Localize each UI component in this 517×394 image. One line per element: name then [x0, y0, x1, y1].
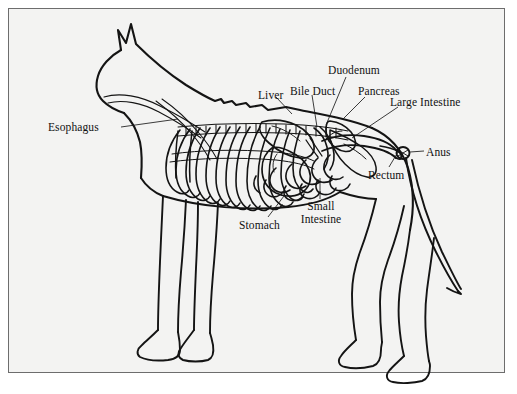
label-liver: Liver	[258, 89, 283, 102]
label-rectum: Rectum	[368, 169, 404, 182]
anatomy-figure: Esophagus Liver Bile Duct Duodenum Pancr…	[0, 0, 517, 394]
label-anus: Anus	[426, 146, 451, 159]
label-bile-duct: Bile Duct	[290, 85, 335, 98]
label-large-intestine: Large Intestine	[390, 96, 461, 109]
label-stomach: Stomach	[239, 219, 280, 232]
label-small-intestine: Small Intestine	[294, 200, 348, 225]
label-esophagus: Esophagus	[48, 121, 99, 134]
label-duodenum: Duodenum	[328, 64, 380, 77]
figure-caption	[10, 381, 410, 393]
label-layer: Esophagus Liver Bile Duct Duodenum Pancr…	[0, 0, 517, 394]
